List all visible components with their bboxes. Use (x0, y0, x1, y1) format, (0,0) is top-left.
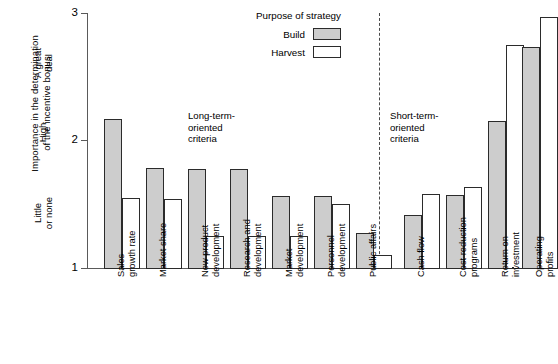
x-label-research-and-development: Research and development (242, 219, 263, 277)
annotation-short-term-criteria: Short-term- oriented criteria (390, 110, 439, 145)
x-label-cost-reduction-programs: Cost reduction programs (458, 217, 479, 277)
x-label-sales-growth-rate: Sales growth rate (116, 230, 137, 277)
x-label-new-product-development: New product development (200, 224, 221, 277)
x-label-personnel-development: Personnel development (326, 224, 347, 277)
legend-item-harvest: Harvest (250, 46, 341, 58)
y-tick-1 (81, 268, 87, 269)
annotation-long-term-criteria: Long-term- oriented criteria (188, 110, 235, 145)
x-label-market-development: Market development (284, 224, 305, 277)
legend-label-harvest: Harvest (271, 47, 305, 58)
y-category-little-or-none: Little or none (32, 176, 54, 250)
y-category-high: High (37, 105, 48, 161)
legend-swatch-build (313, 28, 341, 40)
legend: Purpose of strategy Build Harvest (250, 10, 341, 64)
y-tick-label-3: 3 (60, 7, 78, 19)
x-label-return-on-investment: Return on investment (500, 232, 521, 277)
y-tick-label-2: 2 (60, 134, 78, 146)
y-tick-label-1: 1 (60, 262, 78, 274)
x-label-market-share: Market share (158, 223, 169, 277)
x-label-operating-profits: Operating profits (534, 236, 555, 277)
legend-label-build: Build (283, 29, 305, 40)
legend-swatch-harvest (313, 46, 341, 58)
y-category-a-great-deal: A great deal (32, 28, 54, 98)
y-tick-3 (81, 13, 87, 14)
x-label-public-affairs: Public affairs (368, 224, 379, 277)
legend-title: Purpose of strategy (250, 10, 341, 21)
legend-item-build: Build (250, 28, 341, 40)
y-tick-2 (81, 140, 87, 141)
x-label-cash-flow: Cash flow (416, 236, 427, 277)
bar-harvest-operating-profits (540, 17, 558, 269)
